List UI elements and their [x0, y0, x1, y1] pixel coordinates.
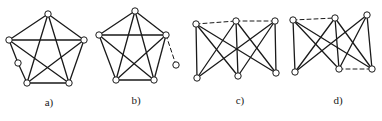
edge: [48, 14, 69, 83]
edge: [9, 14, 48, 40]
panel-label-d: d): [333, 94, 342, 106]
edge: [27, 40, 84, 83]
vertex-bottom-right: [369, 66, 375, 72]
graph-figure: [0, 0, 382, 121]
dashed-edge: [166, 35, 176, 65]
vertex-top: [45, 11, 51, 17]
edge: [196, 24, 238, 76]
vertex-subdivision: [15, 60, 21, 66]
edge: [367, 15, 372, 69]
vertex-bottom-right: [66, 80, 72, 86]
dashed-edge: [293, 18, 335, 20]
vertex-top-mid: [233, 18, 239, 24]
nodes-layer: [6, 8, 375, 86]
vertex-top-left: [290, 17, 296, 23]
vertex-bottom-right: [273, 70, 279, 76]
vertex-top-left: [193, 21, 199, 27]
panel-label-a: a): [45, 96, 54, 108]
edge: [154, 35, 166, 80]
vertex-bottom-right: [151, 77, 157, 83]
panel-d-edges: [293, 15, 372, 72]
edge: [135, 11, 154, 80]
edge: [48, 14, 84, 40]
panel-a-edges: [9, 14, 84, 83]
panel-b-edges: [99, 11, 176, 80]
panel-a-nodes: [6, 11, 87, 86]
edge: [116, 35, 166, 80]
edge: [238, 21, 275, 76]
edges-layer: [9, 11, 372, 83]
vertex-top-mid: [332, 15, 338, 21]
panel-c-edges: [196, 21, 276, 78]
edge: [27, 14, 48, 83]
vertex-bottom-left: [24, 80, 30, 86]
panel-label-c: c): [236, 94, 245, 106]
vertex-bottom-left: [194, 75, 200, 81]
vertex-pendant: [173, 62, 179, 68]
vertex-top-right: [364, 12, 370, 18]
vertex-bottom-left: [292, 69, 298, 75]
vertex-top: [132, 8, 138, 14]
edge: [275, 21, 276, 73]
vertex-left: [96, 32, 102, 38]
dashed-edge: [196, 21, 236, 24]
vertex-bottom-left: [113, 77, 119, 83]
vertex-left: [6, 37, 12, 43]
vertex-bottom-mid: [336, 66, 342, 72]
edge: [135, 11, 166, 35]
edge: [196, 24, 197, 78]
edge: [339, 15, 367, 69]
vertex-right: [81, 37, 87, 43]
vertex-right: [163, 32, 169, 38]
edge: [197, 21, 236, 78]
edge: [293, 20, 295, 72]
vertex-top-right: [272, 18, 278, 24]
vertex-bottom-mid: [235, 73, 241, 79]
edge: [335, 18, 339, 69]
panel-label-b: b): [131, 94, 140, 106]
